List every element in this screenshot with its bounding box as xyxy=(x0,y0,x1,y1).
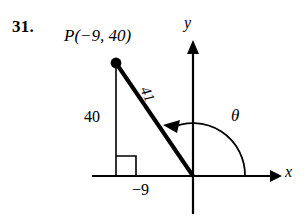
horizontal-leg-label: −9 xyxy=(132,181,149,199)
x-axis-label: x xyxy=(285,163,292,181)
figure-root: 31. P(−9, 40) 40 −9 41 θ x y xyxy=(0,0,304,219)
problem-number: 31. xyxy=(12,17,34,37)
point-p-marker xyxy=(111,58,122,69)
coordinate-diagram xyxy=(0,0,304,219)
angle-arc-arrowhead xyxy=(163,120,180,133)
point-label: P(−9, 40) xyxy=(64,26,131,46)
y-axis-label: y xyxy=(184,14,191,32)
x-axis-arrowhead xyxy=(270,170,282,182)
vertical-leg-label: 40 xyxy=(84,108,100,126)
angle-arc xyxy=(171,123,245,176)
y-axis-arrowhead xyxy=(187,40,199,54)
terminal-side xyxy=(116,63,193,176)
angle-label: θ xyxy=(231,106,239,126)
right-angle-marker xyxy=(116,156,136,176)
